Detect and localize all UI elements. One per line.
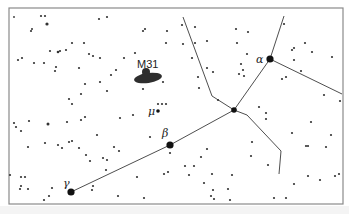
gamma-label: γ [63, 177, 70, 190]
alpha-label: α [256, 53, 264, 66]
star-delta [231, 107, 237, 113]
m31-label: M31 [137, 58, 158, 70]
star-alpha [266, 55, 273, 62]
star-mu [156, 109, 160, 113]
beta-label: β [161, 127, 168, 140]
mu-label: μ [148, 105, 155, 118]
bottom-strip [0, 206, 349, 214]
star-map: M31 α β γ μ [0, 0, 349, 214]
map-frame [9, 8, 343, 204]
star-beta [166, 141, 173, 148]
